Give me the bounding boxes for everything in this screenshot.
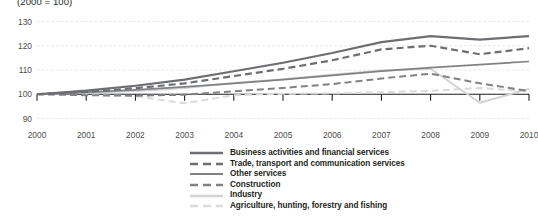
legend-swatch-icon [190, 201, 223, 211]
legend-swatch-icon [190, 180, 223, 190]
svg-text:2000: 2000 [28, 130, 47, 140]
svg-text:2010: 2010 [520, 130, 538, 140]
chart-container: (2000 = 100) 90100110120130 200020012002… [0, 0, 538, 221]
y-gridlines [37, 22, 529, 119]
svg-text:2004: 2004 [224, 130, 243, 140]
legend-swatch-icon [190, 191, 223, 201]
svg-text:2002: 2002 [126, 130, 145, 140]
legend-swatch-icon [190, 159, 223, 169]
x-axis [37, 94, 529, 101]
svg-text:2001: 2001 [77, 130, 96, 140]
legend-item[interactable]: Other services [190, 169, 520, 180]
legend-item[interactable]: Construction [190, 180, 520, 191]
legend-item-label: Agriculture, hunting, forestry and fishi… [230, 201, 387, 212]
legend-item-label: Industry [230, 190, 262, 201]
legend-item-label: Construction [230, 180, 280, 191]
svg-text:2005: 2005 [274, 130, 293, 140]
chart-legend: Business activities and financial servic… [190, 148, 520, 212]
svg-text:110: 110 [19, 65, 33, 75]
svg-text:2006: 2006 [323, 130, 342, 140]
svg-text:2007: 2007 [372, 130, 391, 140]
data-series-group [37, 36, 529, 103]
y-tick-labels: 90100110120130 [18, 17, 32, 124]
legend-item[interactable]: Business activities and financial servic… [190, 148, 520, 159]
svg-text:130: 130 [18, 17, 32, 27]
svg-text:90: 90 [23, 114, 33, 124]
legend-item[interactable]: Trade, transport and communication servi… [190, 159, 520, 170]
legend-item-label: Other services [230, 169, 286, 180]
legend-item[interactable]: Agriculture, hunting, forestry and fishi… [190, 201, 520, 212]
svg-text:2003: 2003 [175, 130, 194, 140]
svg-text:2009: 2009 [470, 130, 489, 140]
legend-swatch-icon [190, 148, 223, 158]
svg-text:120: 120 [18, 41, 32, 51]
legend-item-label: Trade, transport and communication servi… [230, 159, 405, 170]
legend-swatch-icon [190, 169, 223, 179]
x-tick-labels: 2000200120022003200420052006200720082009… [28, 130, 538, 140]
svg-text:100: 100 [18, 89, 32, 99]
legend-item[interactable]: Industry [190, 190, 520, 201]
svg-text:2008: 2008 [421, 130, 440, 140]
legend-item-label: Business activities and financial servic… [230, 148, 389, 159]
plot-area: 90100110120130 2000200120022003200420052… [0, 0, 538, 146]
